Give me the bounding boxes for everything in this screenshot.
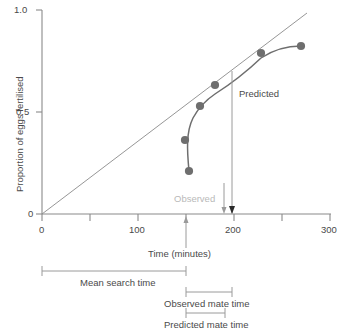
bracket-mean-search-time: [42, 266, 186, 276]
x-axis-title: Time (minutes): [148, 249, 211, 259]
x-tick-label-100: 100: [129, 225, 145, 235]
y-tick-label-0-5: 0.5: [16, 107, 29, 117]
chart-canvas: [0, 0, 339, 335]
chart-figure: Proportion of eggs fertilised 1.0 0.5 0 …: [0, 0, 339, 335]
x-tick-label-0: 0: [39, 225, 44, 235]
data-point: [257, 49, 265, 57]
data-point: [196, 102, 204, 110]
bracket-predicted-mate-time: [186, 308, 225, 318]
predicted-annotation-label: Predicted: [239, 89, 279, 99]
y-axis: [36, 10, 42, 214]
observed-annotation-label: Observed: [174, 194, 215, 204]
data-point: [185, 167, 193, 175]
y-axis-title: Proportion of eggs fertilised: [14, 76, 25, 192]
bracket-label-predicted-mate-time: Predicted mate time: [164, 320, 248, 330]
observed-arrow: [222, 183, 227, 214]
x-tick-label-200: 200: [225, 225, 241, 235]
y-tick-label-0: 0: [28, 209, 33, 219]
data-point: [211, 81, 219, 89]
bracket-label-mean-search-time: Mean search time: [80, 278, 156, 288]
mean-search-time-arrow: [184, 216, 189, 248]
data-point: [181, 136, 189, 144]
bracket-label-observed-mate-time: Observed mate time: [164, 299, 250, 309]
bracket-observed-mate-time: [186, 287, 232, 297]
fitted-curve-series: [188, 46, 301, 171]
x-tick-label-300: 300: [321, 225, 337, 235]
tangent-line-series: [42, 13, 307, 214]
data-point: [297, 42, 305, 50]
y-tick-label-1: 1.0: [14, 5, 27, 15]
predicted-drop-line: [229, 71, 235, 214]
